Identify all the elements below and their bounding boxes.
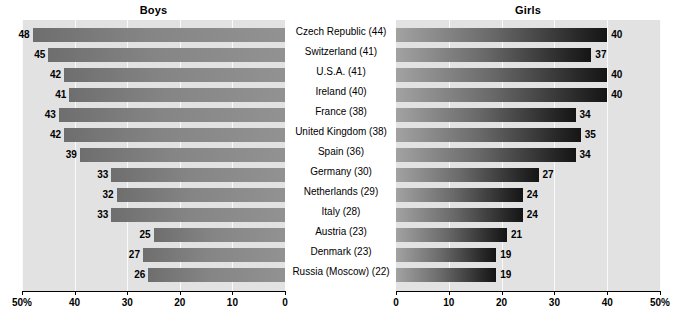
bar-value-boys: 39 xyxy=(55,148,77,162)
bar-row-girls: 27 xyxy=(396,165,660,185)
axis-tick xyxy=(660,291,661,295)
bar-value-girls: 40 xyxy=(611,88,633,102)
axis-tick xyxy=(180,291,181,295)
bar-row-boys: 32 xyxy=(22,185,285,205)
bar-girls xyxy=(396,108,576,122)
bar-girls xyxy=(396,248,496,262)
bar-value-girls: 40 xyxy=(611,68,633,82)
bar-girls xyxy=(396,128,581,142)
axis-tick-label-girls: 30 xyxy=(534,297,574,308)
bar-value-boys: 48 xyxy=(8,28,30,42)
bar-value-boys: 27 xyxy=(118,248,140,262)
bar-boys xyxy=(59,108,285,122)
bar-row-girls: 40 xyxy=(396,25,660,45)
bar-row-boys: 26 xyxy=(22,265,285,285)
bar-girls xyxy=(396,148,576,162)
axis-tick xyxy=(449,291,450,295)
axis-tick-label-girls: 40 xyxy=(587,297,627,308)
bar-boys xyxy=(148,268,285,282)
axis-tick xyxy=(75,291,76,295)
axis-line-boys xyxy=(22,291,286,292)
bar-row-boys: 45 xyxy=(22,45,285,65)
bar-boys xyxy=(33,28,285,42)
country-label: Spain (36) xyxy=(286,142,396,162)
bar-value-girls: 19 xyxy=(500,248,522,262)
bar-boys xyxy=(48,48,285,62)
bar-value-boys: 25 xyxy=(129,228,151,242)
bar-value-boys: 33 xyxy=(86,208,108,222)
bar-boys xyxy=(111,208,285,222)
axis-tick-label-girls: 10 xyxy=(429,297,469,308)
axis-tick xyxy=(502,291,503,295)
bar-row-girls: 19 xyxy=(396,245,660,265)
bar-girls xyxy=(396,48,591,62)
bar-value-boys: 42 xyxy=(39,128,61,142)
bar-value-girls: 21 xyxy=(511,228,533,242)
bar-value-girls: 34 xyxy=(580,108,602,122)
bar-row-girls: 35 xyxy=(396,125,660,145)
bar-value-girls: 19 xyxy=(500,268,522,282)
bar-girls xyxy=(396,28,607,42)
bar-boys xyxy=(69,88,285,102)
plot-area-boys: 48454241434239333233252726 xyxy=(22,20,285,291)
bar-girls xyxy=(396,268,496,282)
axis-tick-label-boys: 20 xyxy=(160,297,200,308)
country-label: Czech Republic (44) xyxy=(286,22,396,42)
bar-row-girls: 34 xyxy=(396,145,660,165)
axis-tick xyxy=(396,291,397,295)
bar-value-girls: 24 xyxy=(527,188,549,202)
bar-boys xyxy=(117,188,285,202)
bar-boys xyxy=(143,248,285,262)
bar-row-girls: 19 xyxy=(396,265,660,285)
bar-value-boys: 43 xyxy=(34,108,56,122)
bar-row-girls: 40 xyxy=(396,85,660,105)
bar-boys xyxy=(111,168,285,182)
bar-row-girls: 40 xyxy=(396,65,660,85)
axis-tick-label-boys: 50% xyxy=(2,297,42,308)
bar-boys xyxy=(154,228,286,242)
bar-girls xyxy=(396,188,523,202)
country-label: U.S.A. (41) xyxy=(286,62,396,82)
bar-value-boys: 41 xyxy=(44,88,66,102)
axis-tick-label-girls: 20 xyxy=(482,297,522,308)
axis-tick xyxy=(127,291,128,295)
bar-value-girls: 27 xyxy=(543,168,565,182)
bar-girls xyxy=(396,68,607,82)
axis-tick-label-boys: 10 xyxy=(212,297,252,308)
bar-row-girls: 34 xyxy=(396,105,660,125)
chart-root: Boys Girls 48454241434239333233252726 40… xyxy=(0,0,676,322)
bar-boys xyxy=(80,148,285,162)
bar-row-boys: 41 xyxy=(22,85,285,105)
bar-row-boys: 48 xyxy=(22,25,285,45)
axis-tick-label-girls: 0 xyxy=(376,297,416,308)
plot-area-girls: 40374040343534272424211919 xyxy=(396,20,660,291)
bar-girls xyxy=(396,88,607,102)
bar-value-boys: 45 xyxy=(23,48,45,62)
bar-value-girls: 40 xyxy=(611,28,633,42)
bar-value-boys: 33 xyxy=(86,168,108,182)
country-label: Switzerland (41) xyxy=(286,42,396,62)
panel-title-boys: Boys xyxy=(22,4,285,16)
bar-row-boys: 42 xyxy=(22,125,285,145)
country-label: France (38) xyxy=(286,102,396,122)
bar-row-boys: 27 xyxy=(22,245,285,265)
bar-row-boys: 42 xyxy=(22,65,285,85)
bar-value-girls: 35 xyxy=(585,128,607,142)
axis-tick-label-boys: 0 xyxy=(265,297,305,308)
bar-girls xyxy=(396,208,523,222)
country-label: Netherlands (29) xyxy=(286,182,396,202)
bar-value-girls: 24 xyxy=(527,208,549,222)
country-label: Russia (Moscow) (22) xyxy=(286,262,396,282)
bar-value-girls: 37 xyxy=(595,48,617,62)
axis-tick xyxy=(232,291,233,295)
bar-row-boys: 39 xyxy=(22,145,285,165)
bar-row-girls: 24 xyxy=(396,205,660,225)
axis-tick-label-girls: 50% xyxy=(640,297,676,308)
country-label: United Kingdom (38) xyxy=(286,122,396,142)
bar-value-girls: 34 xyxy=(580,148,602,162)
bar-girls xyxy=(396,168,539,182)
bar-value-boys: 42 xyxy=(39,68,61,82)
country-label: Germany (30) xyxy=(286,162,396,182)
axis-tick-label-boys: 40 xyxy=(55,297,95,308)
bar-row-boys: 43 xyxy=(22,105,285,125)
